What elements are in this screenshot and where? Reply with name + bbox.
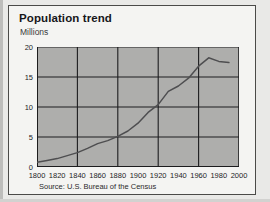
x-tick-label: 2000 [231, 171, 248, 180]
x-tick-label: 1860 [89, 171, 106, 180]
x-tick-label: 1900 [130, 171, 147, 180]
population-line-series [37, 58, 229, 162]
page-title: Population trend [19, 12, 112, 24]
chart-svg [37, 47, 239, 167]
x-tick-label: 1820 [49, 171, 66, 180]
x-tick-label: 1880 [109, 171, 126, 180]
x-tick-label: 1920 [150, 171, 167, 180]
page-edge-bottom [0, 199, 270, 202]
page-background: Population trend Millions 05101520 18001… [0, 0, 270, 202]
horizontal-gridlines [37, 47, 239, 167]
x-tick-label: 1840 [69, 171, 86, 180]
x-tick-label: 1940 [170, 171, 187, 180]
x-tick-label: 1980 [210, 171, 227, 180]
source-note: Source: U.S. Bureau of the Census [39, 182, 156, 191]
y-tick-label: 15 [25, 73, 33, 82]
x-tick-label: 1800 [29, 171, 46, 180]
chart-plot: 05101520 1800182018401860188019001920194… [37, 47, 239, 167]
y-tick-label: 5 [29, 133, 33, 142]
page-edge-left [0, 0, 3, 202]
x-tick-label: 1960 [190, 171, 207, 180]
y-tick-label: 20 [25, 43, 33, 52]
y-tick-label: 10 [25, 103, 33, 112]
chart-card: Population trend Millions 05101520 18001… [8, 5, 256, 195]
y-axis-unit-label: Millions [20, 27, 48, 37]
